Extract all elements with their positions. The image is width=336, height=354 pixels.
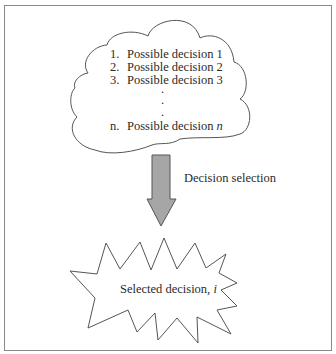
list-item: 1. Possible decision 1 — [110, 47, 223, 61]
item-number: 3. — [110, 73, 119, 87]
arrow-label: Decision selection — [184, 171, 277, 185]
decision-selection-arrow: Decision selection — [147, 155, 277, 226]
item-number: 1. — [110, 47, 119, 61]
item-number: 2. — [110, 60, 119, 74]
vertical-ellipsis: . . . — [161, 82, 164, 119]
item-label: Possible decision n — [127, 119, 223, 133]
item-label: Possible decision 3 — [127, 73, 223, 87]
list-item: 3. Possible decision 3 — [110, 73, 223, 87]
down-arrow-icon — [147, 155, 176, 226]
selected-decision-label: Selected decision, i — [120, 282, 217, 296]
item-label: Possible decision 2 — [127, 60, 223, 74]
item-number: n. — [110, 119, 119, 133]
selected-decision-burst: Selected decision, i — [70, 238, 237, 343]
list-item: 2. Possible decision 2 — [110, 60, 223, 74]
decision-diagram: 1. Possible decision 1 2. Possible decis… — [0, 0, 336, 354]
possible-decisions-cloud: 1. Possible decision 1 2. Possible decis… — [71, 20, 250, 153]
list-item: n. Possible decision n — [110, 119, 223, 133]
item-label: Possible decision 1 — [127, 47, 223, 61]
ellipsis-dot: . — [161, 105, 164, 119]
